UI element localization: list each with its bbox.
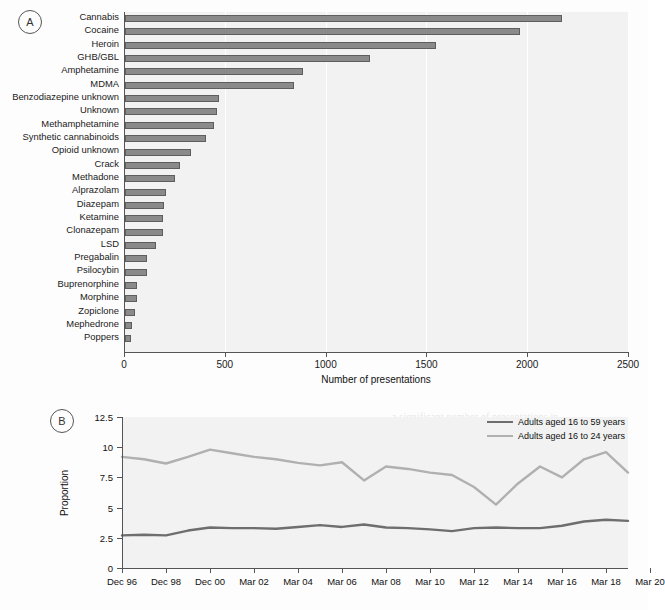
bar-category-label: Amphetamine [0, 64, 119, 75]
legend-line-swatch [487, 435, 513, 438]
bar [125, 68, 303, 75]
y-tick-label: 2.5 [100, 532, 113, 543]
legend-item-label: Adults aged 16 to 24 years [518, 431, 625, 441]
bar [125, 295, 137, 302]
bar-category-label: Alprazolam [0, 184, 119, 195]
panel-a-y-axis-line [124, 12, 125, 353]
x-tick-label: Mar 10 [415, 576, 445, 587]
panel-a-plot-area [124, 12, 628, 352]
bar [125, 335, 131, 342]
bar [125, 55, 370, 62]
bar [125, 108, 217, 115]
x-tick-label: Mar 16 [547, 576, 577, 587]
line-series-path [122, 450, 628, 505]
bar-category-label: Psilocybin [0, 264, 119, 275]
x-tick-label: Mar 04 [283, 576, 313, 587]
gridline [527, 12, 528, 352]
x-tick-label: 0 [121, 359, 127, 370]
gridline [225, 12, 226, 352]
bar-category-label: Zopiclone [0, 305, 119, 316]
bar-category-label: Cocaine [0, 24, 119, 35]
x-tick-label: 2000 [516, 359, 538, 370]
bar-category-label: Opioid unknown [0, 144, 119, 155]
bar [125, 122, 214, 129]
y-tick-label: 0 [108, 563, 113, 574]
bar-category-label: Morphine [0, 291, 119, 302]
x-tick-mark [210, 568, 211, 573]
x-tick-label: Mar 14 [503, 576, 533, 587]
panel-a: A CannabisCocaineHeroinGHB/GBLAmphetamin… [0, 0, 648, 395]
panel-b-legend: Adults aged 16 to 59 years Adults aged 1… [487, 415, 625, 443]
x-tick-mark [122, 568, 123, 573]
x-tick-mark [562, 568, 563, 573]
bar-category-label: Buprenorphine [0, 278, 119, 289]
gridline [326, 12, 327, 352]
bar-category-label: Synthetic cannabinoids [0, 131, 119, 142]
x-tick-label: Dec 00 [195, 576, 225, 587]
x-tick-mark [518, 568, 519, 573]
x-tick-label: 1000 [314, 359, 336, 370]
x-tick-label: Dec 96 [107, 576, 137, 587]
bar [125, 149, 191, 156]
bar [125, 42, 436, 49]
bar-category-label: Crack [0, 158, 119, 169]
legend-line-swatch [487, 421, 513, 424]
x-tick-label: Mar 12 [459, 576, 489, 587]
gridline [426, 12, 427, 352]
bar [125, 269, 147, 276]
bar [125, 15, 562, 22]
x-tick-label: Mar 18 [591, 576, 621, 587]
bar [125, 309, 135, 316]
panel-b: B 02.557.51012.5 Dec 96Dec 98Dec 00Mar 0… [0, 395, 648, 610]
bar-category-label: Diazepam [0, 198, 119, 209]
x-tick-label: Mar 02 [239, 576, 269, 587]
bar-category-label: Poppers [0, 331, 119, 342]
bar-category-label: Unknown [0, 104, 119, 115]
x-tick-mark [430, 568, 431, 573]
bar-category-label: MDMA [0, 78, 119, 89]
bar [125, 229, 163, 236]
x-tick-mark [298, 568, 299, 573]
bar-category-label: Clonazepam [0, 224, 119, 235]
panel-b-y-axis-title: Proportion [59, 470, 70, 516]
y-tick-mark [117, 447, 122, 448]
y-tick-mark [117, 417, 122, 418]
x-tick-mark [326, 352, 327, 357]
bar [125, 135, 206, 142]
x-tick-mark [254, 568, 255, 573]
y-tick-mark [117, 508, 122, 509]
x-tick-label: 2500 [617, 359, 639, 370]
bar [125, 215, 163, 222]
bar [125, 82, 294, 89]
panel-b-x-axis-line [122, 568, 628, 569]
x-tick-mark [166, 568, 167, 573]
panel-a-x-axis-line [124, 352, 628, 353]
bar-category-label: Methadone [0, 171, 119, 182]
bar-category-label: Methamphetamine [0, 118, 119, 129]
x-tick-mark [426, 352, 427, 357]
bar [125, 162, 180, 169]
bar-category-label: Heroin [0, 38, 119, 49]
x-tick-mark [124, 352, 125, 357]
x-tick-mark [527, 352, 528, 357]
x-tick-mark [606, 568, 607, 573]
bar-category-label: GHB/GBL [0, 51, 119, 62]
x-tick-mark [628, 352, 629, 357]
legend-item: Adults aged 16 to 24 years [487, 429, 625, 443]
x-tick-mark [650, 568, 651, 573]
y-tick-mark [117, 538, 122, 539]
bar-category-label: Pregabalin [0, 251, 119, 262]
x-tick-label: Mar 08 [371, 576, 401, 587]
x-tick-mark [225, 352, 226, 357]
legend-item-label: Adults aged 16 to 59 years [518, 417, 625, 427]
legend-item: Adults aged 16 to 59 years [487, 415, 625, 429]
panel-a-x-axis-title: Number of presentations [124, 374, 628, 385]
x-tick-mark [386, 568, 387, 573]
bar [125, 255, 147, 262]
gridline [628, 12, 629, 352]
bar [125, 28, 520, 35]
y-tick-label: 12.5 [95, 412, 114, 423]
bar [125, 189, 166, 196]
x-tick-label: Mar 06 [327, 576, 357, 587]
x-tick-mark [342, 568, 343, 573]
